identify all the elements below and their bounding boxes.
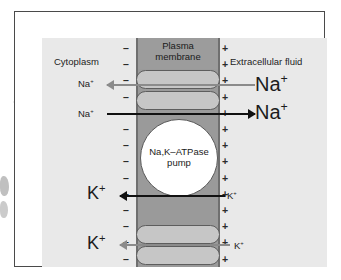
- ion-symbol: K: [87, 233, 99, 253]
- positive-charge: +: [222, 124, 228, 135]
- positive-charge: +: [222, 59, 228, 70]
- lipid-capsule: [136, 246, 220, 265]
- ion-charge: +: [281, 100, 288, 114]
- arrow-head-left: [106, 80, 114, 90]
- arrow-head-right: [248, 109, 256, 119]
- negative-charge: –: [123, 173, 129, 184]
- negative-charge: –: [123, 43, 129, 54]
- positive-charge: +: [222, 254, 228, 265]
- cytoplasm-label: Cytoplasm: [54, 56, 99, 67]
- negative-charge: –: [123, 140, 129, 151]
- plasma-membrane-label: Plasma membrane: [139, 41, 217, 63]
- negative-charge: –: [123, 59, 129, 70]
- positive-charge: +: [222, 92, 228, 103]
- lipid-capsule: [136, 91, 220, 110]
- positive-charge: +: [222, 237, 228, 248]
- sodium-label-cytoplasm-efflux: Na+: [78, 78, 94, 89]
- extracellular-fluid-label: Extracellular fluid: [230, 56, 302, 67]
- arrow-head-left: [119, 240, 127, 250]
- arrow-shaft: [107, 113, 255, 115]
- arrow-shaft: [120, 244, 230, 246]
- ion-charge: +: [90, 78, 93, 84]
- potassium-label-cytoplasm-bottom: K+: [87, 232, 106, 254]
- arrow-head-left: [119, 191, 127, 201]
- ion-charge: +: [233, 190, 236, 196]
- na-k-atpase-pump: Na,K–ATPase pump: [140, 119, 218, 197]
- ion-symbol: Na: [255, 73, 281, 95]
- potassium-label-cytoplasm-mid: K+: [87, 182, 106, 204]
- sodium-label-extracellular-top: Na+: [255, 72, 288, 96]
- negative-charge: –: [123, 156, 129, 167]
- ion-symbol: K: [87, 183, 99, 203]
- arrow-shaft: [120, 195, 225, 197]
- positive-charge: +: [222, 43, 228, 54]
- positive-charge: +: [222, 205, 228, 216]
- figure-frame: Plasma membrane –––––––––––––– +++++++++…: [14, 11, 325, 267]
- positive-charge: +: [222, 156, 228, 167]
- potassium-label-extracellular-bottom: K+: [234, 240, 244, 251]
- ion-charge: +: [90, 108, 93, 114]
- negative-charge: –: [123, 92, 129, 103]
- sodium-label-extracellular-bottom: Na+: [255, 100, 288, 124]
- plasma-membrane-label-line2: membrane: [155, 51, 200, 62]
- arrow-shaft: [107, 84, 255, 86]
- negative-charge: –: [123, 124, 129, 135]
- potassium-label-extracellular-mid: K+: [227, 190, 237, 201]
- plasma-membrane-label-line1: Plasma: [162, 40, 194, 51]
- scan-artifact-smudge: [0, 201, 8, 218]
- positive-charge: +: [222, 140, 228, 151]
- positive-charge: +: [222, 221, 228, 232]
- ion-charge: +: [240, 240, 243, 246]
- scan-artifact-smudge: [0, 176, 9, 196]
- lipid-capsule: [136, 225, 220, 244]
- negative-charge: –: [123, 221, 129, 232]
- ion-charge: +: [99, 182, 106, 194]
- ion-symbol: Na: [255, 101, 281, 123]
- ion-charge: +: [281, 72, 288, 86]
- ion-symbol: Na: [78, 108, 90, 119]
- positive-charge: +: [222, 173, 228, 184]
- sodium-label-cytoplasm: Na+: [78, 108, 94, 119]
- negative-charge: –: [123, 205, 129, 216]
- negative-charge: –: [123, 254, 129, 265]
- lipid-capsule: [136, 70, 220, 89]
- pump-label-line2: pump: [167, 158, 191, 169]
- ion-charge: +: [99, 232, 106, 244]
- ion-symbol: Na: [78, 78, 90, 89]
